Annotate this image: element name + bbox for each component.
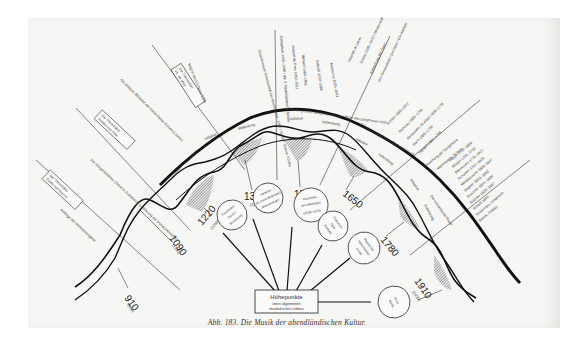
svg-text:Initiative: Initiative — [290, 117, 303, 121]
inner-wave — [75, 132, 476, 298]
svg-text:Anfänge der Mehrstimmigkeit: Anfänge der Mehrstimmigkeit — [59, 208, 96, 243]
circle-1780: Klassische Instrumental- musik — [342, 226, 387, 271]
svg-text:Höhepunkte: Höhepunkte — [270, 294, 303, 300]
svg-text:Orlando di Lasso: Orlando di Lasso — [347, 36, 362, 62]
svg-text:Palestrina 1525–1594: Palestrina 1525–1594 — [329, 62, 339, 97]
svg-text:Die romantische Musik: Die romantische Musik — [429, 194, 453, 226]
svg-text:Gabrieli 1510–1586: Gabrieli 1510–1586 — [315, 60, 323, 92]
box-theoretiker-2: Die Theoretiker Franko von Köln — [94, 110, 135, 149]
highlights-box: Höhepunkte eines allgemeinen musikalisch… — [255, 290, 318, 313]
svg-text:musikalischen Lebens: musikalischen Lebens — [269, 307, 304, 311]
svg-text:Ars antiqua: Blütezeit der Not: Ars antiqua: Blütezeit der Notre-Dame-Sc… — [119, 78, 183, 142]
svg-text:Vollendung: Vollendung — [184, 149, 199, 165]
svg-text:Willaert 1480–1562: Willaert 1480–1562 — [301, 55, 308, 86]
svg-text:eines allgemeinen: eines allgemeinen — [272, 302, 300, 306]
figure-caption: Abb. 183. Die Musik der abendländischen … — [0, 318, 574, 327]
connector-lines — [223, 219, 371, 302]
music-history-diagram: Initiative Vollendung Initiative Vollend… — [0, 0, 574, 356]
circle-1370: Vorbeter ars nova (Machaut) Meistersinge… — [248, 178, 288, 218]
svg-text:Vollendung: Vollendung — [423, 204, 435, 222]
svg-text:Vollendung: Vollendung — [322, 120, 340, 126]
svg-text:Vollendung: Vollendung — [377, 153, 394, 166]
svg-text:Initiative: Initiative — [409, 178, 420, 191]
annotations: Anfänge der Mehrstimmigkeit Der Gregoria… — [59, 17, 504, 243]
year-1780: 1780 — [378, 234, 401, 258]
svg-text:Josquin de Pres 1450–1521: Josquin de Pres 1450–1521 — [291, 45, 299, 90]
box-theoretiker-1: Die Theoretiker Guido von Arezzo — [42, 170, 83, 209]
